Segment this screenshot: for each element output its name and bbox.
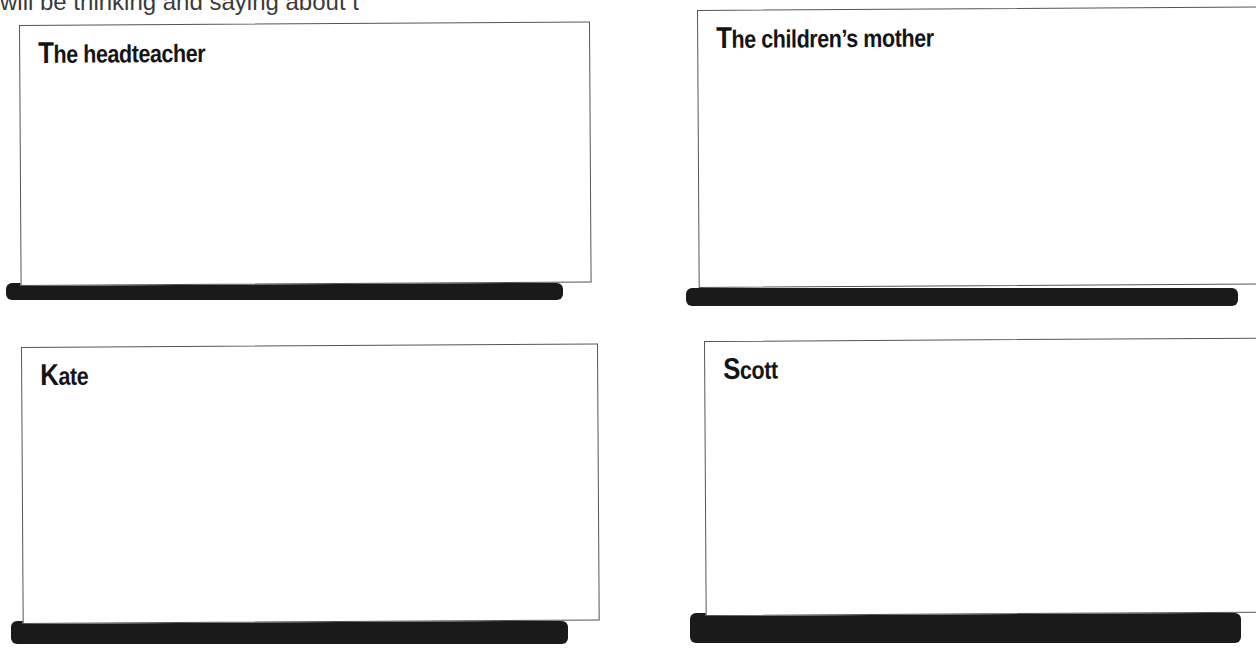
instruction-text: will be thinking and saying about t [0,0,359,16]
box-shadow [686,288,1238,306]
writing-area[interactable]: Kate [21,343,600,624]
title-initial: T [716,21,732,54]
writing-area[interactable]: Scott [704,338,1256,616]
box-shadow [11,621,568,644]
writing-area[interactable]: The children’s mother [697,6,1256,288]
writing-area[interactable]: The headteacher [19,22,592,286]
box-title: Scott [723,352,778,386]
box-title: The children’s mother [716,20,934,55]
title-initial: S [723,352,740,385]
title-rest: cott [740,356,778,384]
title-rest: he headteacher [53,39,205,68]
title-rest: he children’s mother [731,24,933,53]
title-initial: K [40,358,58,391]
box-title: The headteacher [38,35,205,70]
box-title: Kate [40,358,88,392]
title-initial: T [38,36,54,69]
title-rest: ate [58,362,88,390]
box-shadow [690,613,1241,643]
